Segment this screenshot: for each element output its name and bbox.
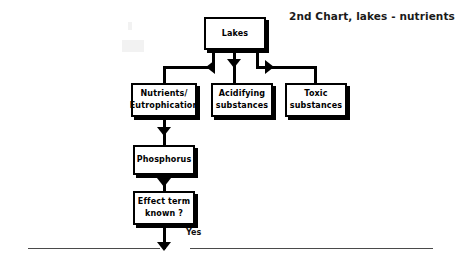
node-lakes[interactable]: Lakes — [204, 17, 266, 50]
node-phosphorus[interactable]: Phosphorus — [133, 145, 195, 175]
node-acidifying-substances-label: Acidifying substances — [215, 88, 269, 111]
arrowhead-lakes-to-acidifying — [227, 59, 241, 68]
node-toxic-substances-label: Toxic substances — [289, 88, 343, 111]
node-phosphorus-label: Phosphorus — [136, 154, 193, 166]
edge-label-yes: Yes — [186, 228, 201, 237]
edge-to-toxic — [314, 66, 317, 84]
node-acidifying-substances[interactable]: Acidifying substances — [211, 83, 273, 117]
arrowhead-lakes-right — [265, 60, 274, 74]
chart-title: 2nd Chart, lakes - nutrients — [289, 10, 455, 22]
scan-artifact — [122, 40, 144, 52]
node-lakes-label: Lakes — [221, 28, 250, 40]
scan-artifact — [128, 22, 132, 30]
node-effect-term-known[interactable]: Effect term known ? — [133, 191, 195, 225]
node-toxic-substances[interactable]: Toxic substances — [285, 83, 347, 117]
bottom-rule-left — [28, 248, 160, 249]
node-effect-term-known-label: Effect term known ? — [137, 196, 191, 219]
arrowhead-nutrients-to-phosphorus — [157, 127, 171, 136]
node-nutrients-eutrophication[interactable]: Nutrients/ Eutrophication — [131, 83, 197, 117]
flowchart-canvas: 2nd Chart, lakes - nutrients Yes Lakes N… — [0, 0, 461, 267]
node-nutrients-eutrophication-label: Nutrients/ Eutrophication — [129, 88, 200, 111]
arrowhead-phosphorus-to-effect — [157, 178, 171, 187]
arrowhead-effect-to-bottom — [157, 242, 171, 251]
edge-to-nutrients — [163, 66, 166, 84]
arrowhead-lakes-left — [206, 60, 215, 74]
bottom-rule-right — [190, 248, 433, 249]
